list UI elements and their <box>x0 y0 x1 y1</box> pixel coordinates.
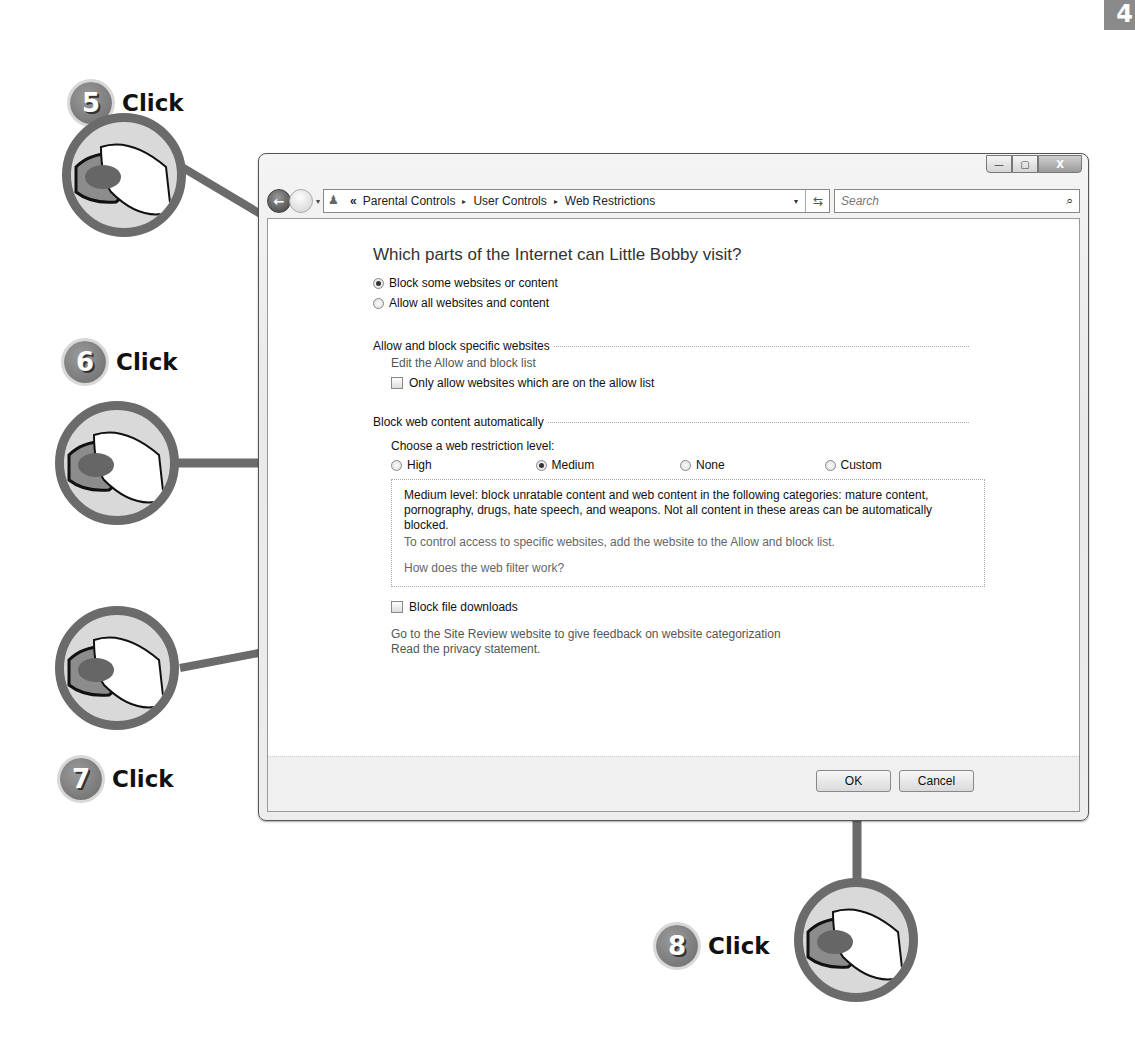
section-title: Block web content automatically <box>373 415 544 429</box>
search-placeholder: Search <box>841 194 1066 208</box>
step-6-callout: 6 Click <box>64 341 178 383</box>
breadcrumb-web-restrictions[interactable]: Web Restrictions <box>565 194 655 208</box>
radio-level-medium[interactable]: Medium <box>536 455 681 475</box>
radio-label: Medium <box>552 458 595 472</box>
minimize-button[interactable]: — <box>986 155 1012 173</box>
web-restrictions-window: — ▢ X ← ▾ ♟ « Parental Controls ▸ User C… <box>258 153 1089 821</box>
step-label: Click <box>116 349 178 375</box>
recent-pages-dropdown[interactable]: ▾ <box>316 197 320 206</box>
radio-block-some[interactable]: Block some websites or content <box>373 273 969 293</box>
mouse-click-icon <box>55 606 179 730</box>
address-dropdown-icon[interactable]: ▾ <box>787 197 805 206</box>
edit-allow-block-list-link[interactable]: Edit the Allow and block list <box>391 353 969 373</box>
mouse-click-icon <box>55 401 179 525</box>
section-auto-block: Block web content automatically <box>373 415 969 429</box>
section-allow-block: Allow and block specific websites <box>373 339 969 353</box>
web-filter-help-link[interactable]: How does the web filter work? <box>404 561 972 576</box>
section-divider <box>548 422 969 423</box>
forward-button[interactable] <box>289 189 313 213</box>
checkbox-label: Block file downloads <box>409 600 518 614</box>
dialog-button-bar: OK Cancel <box>268 756 1079 811</box>
maximize-button[interactable]: ▢ <box>1012 155 1038 173</box>
radio-allow-all[interactable]: Allow all websites and content <box>373 293 969 313</box>
radio-label: Allow all websites and content <box>389 296 549 310</box>
chapter-tab: 4 <box>1104 0 1135 30</box>
radio-icon[interactable] <box>680 460 691 471</box>
section-divider <box>554 346 969 347</box>
breadcrumb-separator-icon[interactable]: ▸ <box>462 197 466 206</box>
radio-icon-selected[interactable] <box>373 278 384 289</box>
level-description: Medium level: block unratable content an… <box>404 488 972 533</box>
restriction-level-options: High Medium None Custom <box>391 455 969 475</box>
search-input[interactable]: Search ⌕ <box>834 189 1080 213</box>
privacy-statement-link[interactable]: Read the privacy statement. <box>391 642 969 657</box>
block-downloads-checkbox[interactable] <box>391 601 403 613</box>
mouse-click-icon <box>794 878 918 1002</box>
restriction-level-label: Choose a web restriction level: <box>391 439 969 455</box>
section-title: Allow and block specific websites <box>373 339 550 353</box>
radio-label: High <box>407 458 432 472</box>
checkbox-label: Only allow websites which are on the all… <box>409 376 654 390</box>
radio-level-none[interactable]: None <box>680 455 825 475</box>
breadcrumb-overflow[interactable]: « <box>350 194 357 208</box>
site-review-link[interactable]: Go to the Site Review website to give fe… <box>391 627 969 642</box>
breadcrumb-parental-controls[interactable]: Parental Controls <box>363 194 456 208</box>
caption-buttons: — ▢ X <box>986 155 1082 173</box>
breadcrumb-user-controls[interactable]: User Controls <box>473 194 546 208</box>
step-7-callout: 7 Click <box>60 758 174 800</box>
radio-label: Custom <box>841 458 882 472</box>
close-button[interactable]: X <box>1038 155 1082 173</box>
step-label: Click <box>112 766 174 792</box>
step-label: Click <box>122 90 184 116</box>
content-pane: Which parts of the Internet can Little B… <box>267 218 1080 812</box>
radio-icon[interactable] <box>825 460 836 471</box>
mouse-click-icon <box>62 113 186 237</box>
page-title: Which parts of the Internet can Little B… <box>373 245 969 265</box>
level-description-box: Medium level: block unratable content an… <box>391 479 985 587</box>
radio-icon-selected[interactable] <box>536 460 547 471</box>
refresh-icon[interactable]: ⇆ <box>805 190 829 212</box>
radio-icon[interactable] <box>373 298 384 309</box>
back-button[interactable]: ← <box>267 189 291 213</box>
search-icon[interactable]: ⌕ <box>1066 193 1073 209</box>
step-number-badge: 7 <box>60 758 102 800</box>
radio-label: None <box>696 458 725 472</box>
address-bar[interactable]: ♟ « Parental Controls ▸ User Controls ▸ … <box>323 189 830 213</box>
radio-label: Block some websites or content <box>389 276 558 290</box>
control-panel-icon: ♟ <box>328 193 344 209</box>
footer-links: Go to the Site Review website to give fe… <box>373 627 969 657</box>
radio-level-high[interactable]: High <box>391 455 536 475</box>
only-allow-list-checkbox[interactable] <box>391 377 403 389</box>
block-downloads-checkbox-row[interactable]: Block file downloads <box>391 597 969 617</box>
step-number-badge: 8 <box>656 925 698 967</box>
control-access-hint: To control access to specific websites, … <box>404 535 972 550</box>
step-label: Click <box>708 933 770 959</box>
radio-level-custom[interactable]: Custom <box>825 455 970 475</box>
breadcrumb-separator-icon[interactable]: ▸ <box>554 197 558 206</box>
only-allow-list-checkbox-row[interactable]: Only allow websites which are on the all… <box>391 373 969 393</box>
radio-icon[interactable] <box>391 460 402 471</box>
step-number-badge: 6 <box>64 341 106 383</box>
step-8-callout: 8 Click <box>656 925 770 967</box>
cancel-button[interactable]: Cancel <box>899 770 974 792</box>
navigation-bar: ← ▾ ♟ « Parental Controls ▸ User Control… <box>267 188 1080 214</box>
ok-button[interactable]: OK <box>816 770 891 792</box>
